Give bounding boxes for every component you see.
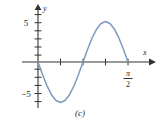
graph-plot: y x 5 −5 π 2 (c) [0, 0, 161, 124]
x-axis-arrow-icon [149, 58, 156, 65]
y-axis-label: y [42, 4, 47, 13]
x-tick-label-pi-numerator: π [126, 69, 131, 78]
x-tick-label-pi-denominator: 2 [126, 80, 130, 89]
figure-caption: (c) [75, 108, 85, 118]
y-tick-label-5: 5 [24, 18, 29, 28]
x-axis-label: x [142, 48, 147, 57]
y-axis-arrow-icon [35, 4, 42, 10]
figure-container: y x 5 −5 π 2 (c) [0, 0, 161, 124]
y-tick-label-negative-5: −5 [21, 89, 31, 99]
